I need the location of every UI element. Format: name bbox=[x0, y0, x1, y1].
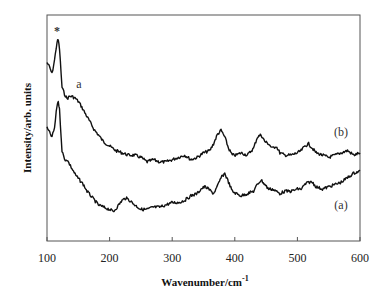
x-tick-labels: 100 200 300 400 500 600 bbox=[38, 251, 369, 265]
curve-a-label: (a) bbox=[334, 198, 347, 212]
peak-a-label: a bbox=[76, 77, 82, 91]
y-axis-title: Intensity/arb. units bbox=[21, 82, 33, 173]
x-tick-100: 100 bbox=[38, 251, 56, 265]
x-axis-title: Wavenumber/cm-1 bbox=[161, 274, 248, 288]
plot-frame bbox=[47, 15, 360, 241]
spectrum-curve-a bbox=[47, 101, 360, 211]
curve-b-label: (b) bbox=[334, 125, 348, 139]
x-tick-marks bbox=[47, 237, 360, 241]
x-tick-200: 200 bbox=[101, 251, 119, 265]
x-axis-title-sup: -1 bbox=[242, 274, 249, 283]
x-tick-500: 500 bbox=[288, 251, 306, 265]
x-axis-title-text: Wavenumber/cm bbox=[161, 276, 242, 288]
x-tick-300: 300 bbox=[163, 251, 181, 265]
raman-spectrum-chart: 100 200 300 400 500 600 Wavenumber/cm-1 … bbox=[0, 0, 386, 302]
x-tick-600: 600 bbox=[351, 251, 369, 265]
star-marker: * bbox=[54, 24, 60, 38]
spectrum-curve-b bbox=[47, 40, 360, 163]
x-tick-400: 400 bbox=[226, 251, 244, 265]
